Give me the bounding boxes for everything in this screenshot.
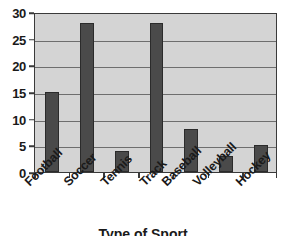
plot-area <box>34 13 277 173</box>
y-axis-tick-label: 30 <box>12 6 26 21</box>
y-axis-tick-label: 20 <box>12 59 26 74</box>
y-axis: 051015202530 <box>0 0 34 236</box>
y-axis-tick-label: 15 <box>12 86 26 101</box>
y-axis-tick-label: 5 <box>19 139 26 154</box>
y-axis-tick-label: 10 <box>12 112 26 127</box>
y-axis-tick-label: 25 <box>12 32 26 47</box>
bar <box>80 23 94 172</box>
bars-group <box>35 14 276 172</box>
x-axis-labels: FootballSoccerTennisTrackBaseballVolleyb… <box>34 173 277 228</box>
bar-chart: 051015202530 FootballSoccerTennisTrackBa… <box>0 0 286 236</box>
bar <box>150 23 164 172</box>
x-axis-title: Type of Sport <box>0 227 286 236</box>
